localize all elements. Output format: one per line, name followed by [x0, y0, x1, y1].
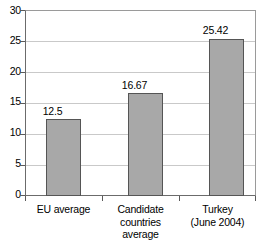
- x-tick-mark-1: [102, 196, 103, 201]
- bar-eu-average: [46, 119, 81, 196]
- x-tick-label-candidate-countries-average: Candidate countries average: [101, 203, 180, 241]
- y-tick-label-30: 30: [0, 5, 21, 15]
- x-tick-label-eu-average-line-1: EU average: [24, 203, 103, 216]
- x-tick-label-candidate-line-2: countries: [101, 216, 180, 229]
- bar-value-candidate-countries-average: 16.67: [112, 80, 157, 91]
- x-tick-mark-right: [255, 196, 256, 201]
- y-tick-label-0: 0: [0, 189, 21, 199]
- x-tick-mark-left: [25, 196, 26, 201]
- x-tick-label-eu-average: EU average: [24, 203, 103, 216]
- bar-turkey-june-2004: [209, 39, 244, 196]
- bar-candidate-countries-average: [128, 93, 163, 196]
- x-tick-label-turkey-june-2004: Turkey (June 2004): [178, 203, 257, 228]
- y-tick-label-15: 15: [0, 96, 21, 106]
- y-tick-label-20: 20: [0, 66, 21, 76]
- plot-area: [25, 10, 256, 196]
- y-tick-label-5: 5: [0, 158, 21, 168]
- x-tick-label-candidate-line-1: Candidate: [101, 203, 180, 216]
- x-tick-label-turkey-line-1: Turkey: [178, 203, 257, 216]
- bar-value-eu-average: 12.5: [30, 106, 75, 117]
- bar-chart: 30 25 20 15 10 5 0 12.5 16.67 25.42: [0, 0, 269, 242]
- bar-value-turkey-june-2004: 25.42: [193, 25, 238, 36]
- y-tick-label-10: 10: [0, 127, 21, 137]
- x-tick-mark-2: [179, 196, 180, 201]
- x-tick-label-candidate-line-3: average: [101, 228, 180, 241]
- y-tick-label-25: 25: [0, 35, 21, 45]
- x-tick-label-turkey-line-2: (June 2004): [178, 216, 257, 229]
